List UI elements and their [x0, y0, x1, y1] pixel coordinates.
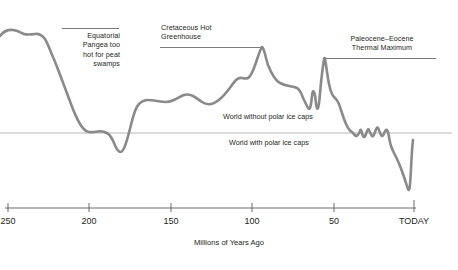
annotation-line: hot for peat	[62, 50, 120, 59]
annotation-paleocene-eocene-thermal-maximum: Paleocene–Eocene Thermal Maximum	[330, 34, 434, 53]
annotation-line: swamps	[62, 59, 120, 68]
annotation-line: Greenhouse	[161, 32, 263, 41]
x-tick-label-250: 250	[0, 216, 15, 226]
annotation-line: Cretaceous Hot	[161, 23, 263, 32]
x-tick-label-100: 100	[244, 216, 259, 226]
annotation-line: Equatorial	[62, 31, 120, 40]
x-axis-title: Millions of Years Ago	[0, 238, 458, 247]
annotation-line: Paleocene–Eocene	[330, 34, 434, 43]
annotation-equatorial-pangea: Equatorial Pangea too hot for peat swamp…	[62, 31, 120, 69]
x-tick-label-150: 150	[163, 216, 178, 226]
annotation-line: Thermal Maximum	[330, 43, 434, 52]
temperature-history-chart: Equatorial Pangea too hot for peat swamp…	[0, 0, 458, 270]
label-world-with-polar-ice-caps: World with polar ice caps	[229, 138, 309, 147]
label-world-without-polar-ice-caps: World without polar ice caps	[223, 112, 313, 121]
x-tick-label-today: TODAY	[399, 216, 429, 226]
x-tick-label-200: 200	[81, 216, 96, 226]
annotation-cretaceous-hot-greenhouse: Cretaceous Hot Greenhouse	[161, 23, 263, 42]
annotation-line: Pangea too	[62, 40, 120, 49]
x-tick-label-50: 50	[329, 216, 339, 226]
